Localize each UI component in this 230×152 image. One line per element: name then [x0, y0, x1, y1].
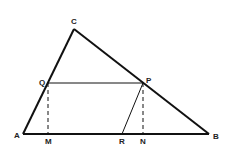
- label-p: P: [146, 76, 152, 85]
- label-b: B: [213, 132, 219, 141]
- side-cb: [74, 29, 209, 134]
- label-m: M: [45, 137, 52, 146]
- label-n: N: [140, 137, 146, 146]
- triangle-diagram: C A B Q P M R N: [0, 0, 230, 152]
- label-a: A: [14, 131, 20, 140]
- label-c: C: [71, 17, 77, 26]
- label-q: Q: [39, 78, 45, 87]
- label-r: R: [119, 137, 125, 146]
- segment-pr: [122, 83, 143, 134]
